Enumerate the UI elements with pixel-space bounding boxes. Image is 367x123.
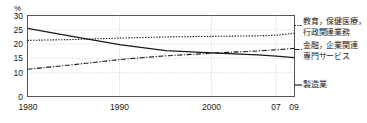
legend-item-manufacturing: 製造業 bbox=[303, 80, 326, 91]
chart-screenshot: % 30 25 20 15 10 0 1980 1990 2000 07 09 … bbox=[0, 0, 367, 123]
x-tick-07: 07 bbox=[271, 102, 281, 112]
legend-item-finance-business-services: 金融，企業関連 専門サービス bbox=[303, 41, 358, 62]
x-tick-1990: 1990 bbox=[110, 102, 129, 112]
legend-label-line2: 専門サービス bbox=[303, 52, 358, 63]
x-tick-09: 09 bbox=[289, 102, 299, 112]
legend-label-line1: 金融，企業関連 bbox=[303, 41, 358, 52]
legend-label-line1: 教育，保健医療， bbox=[303, 17, 365, 28]
y-tick-20: 20 bbox=[14, 39, 24, 49]
x-tick-2000: 2000 bbox=[202, 102, 221, 112]
legend-item-education-health-admin: 教育，保健医療， 行政関連業務 bbox=[303, 17, 365, 38]
y-tick-0: 0 bbox=[18, 92, 23, 102]
x-tick-1980: 1980 bbox=[19, 102, 38, 112]
y-tick-30: 30 bbox=[14, 11, 24, 21]
y-tick-10: 10 bbox=[14, 68, 24, 78]
legend-leader-lines bbox=[295, 26, 303, 86]
legend-label-line2: 行政関連業務 bbox=[303, 28, 365, 39]
legend-label-line1: 製造業 bbox=[303, 80, 326, 91]
y-tick-25: 25 bbox=[14, 25, 24, 35]
y-tick-15: 15 bbox=[14, 53, 24, 63]
